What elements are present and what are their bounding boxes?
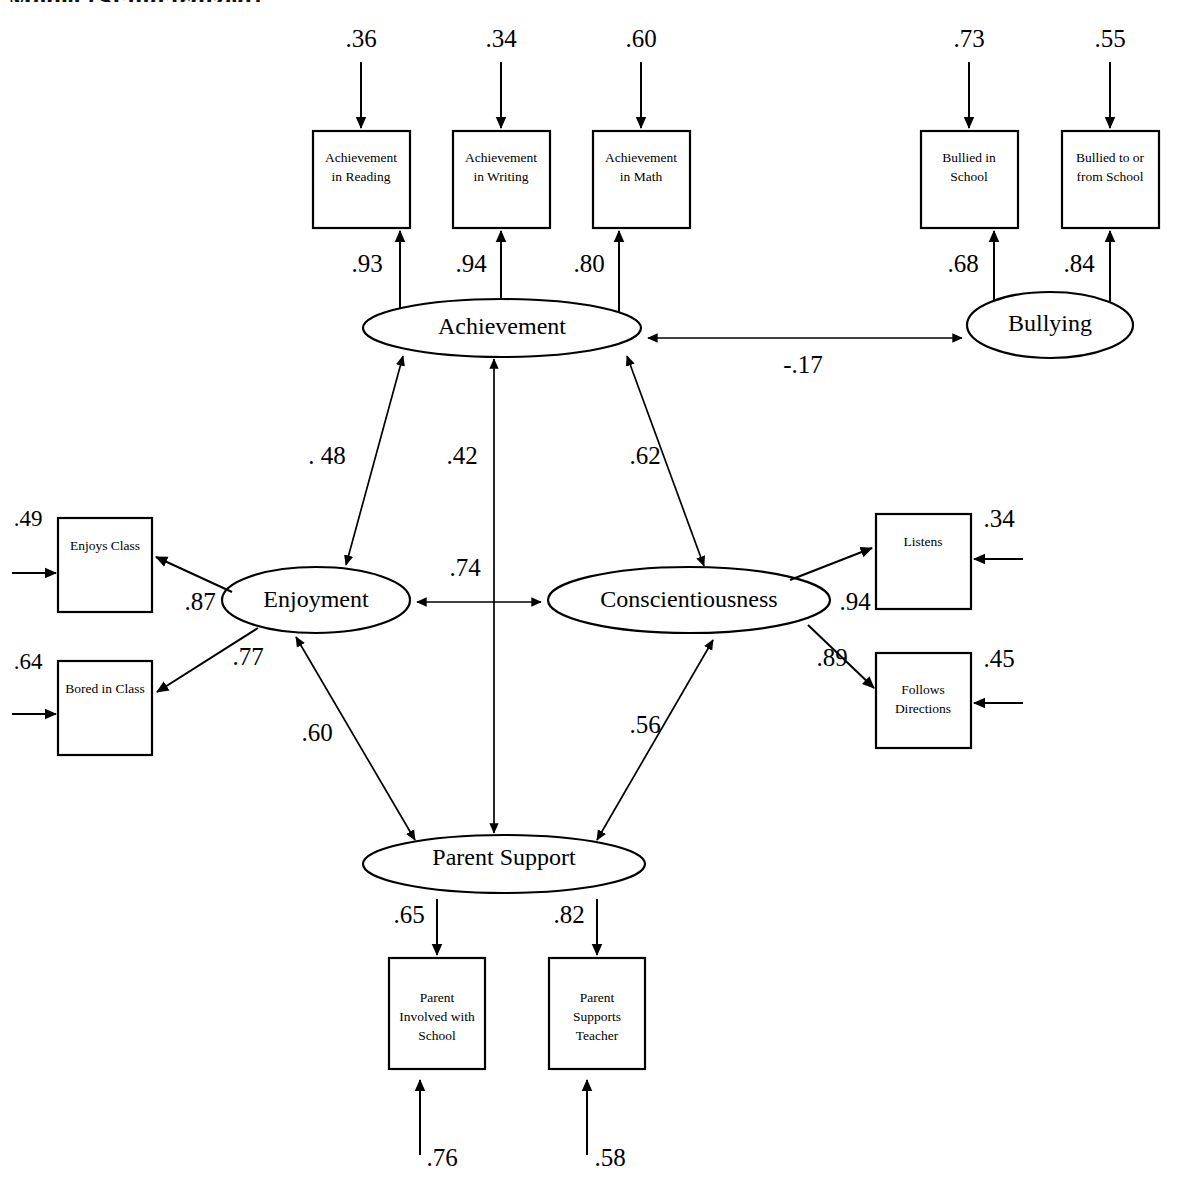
label-parent-involved-l1: Parent <box>420 990 455 1005</box>
loading-arrow-listens <box>790 548 872 580</box>
coef-conscientiousness-parent-support: .56 <box>629 711 660 738</box>
coef-residual-parent-involved: .76 <box>426 1144 457 1171</box>
coef-loading-bored: .77 <box>232 643 263 670</box>
path-conscientiousness-parent-support <box>597 640 713 840</box>
coef-residual-math: .60 <box>625 25 656 52</box>
coef-residual-writing: .34 <box>485 25 517 52</box>
label-bored-class: Bored in Class <box>65 681 145 696</box>
coef-enjoyment-conscientiousness: .74 <box>449 554 481 581</box>
coef-achievement-conscientiousness: .62 <box>629 442 660 469</box>
coef-achievement-bullying: -.17 <box>783 351 823 378</box>
label-bullied-school-l2: School <box>950 169 988 184</box>
label-ach-math-l2: in Math <box>620 169 663 184</box>
coef-loading-writing: .94 <box>455 250 487 277</box>
label-parent-supports-l1: Parent <box>580 990 615 1005</box>
coef-loading-enjoys: .87 <box>184 588 215 615</box>
label-bullied-tofrom-l1: Bullied to or <box>1076 150 1145 165</box>
coef-residual-parent-supports: .58 <box>594 1144 625 1171</box>
label-bullied-tofrom-l2: from School <box>1076 169 1143 184</box>
label-ach-math-l1: Achievement <box>605 150 677 165</box>
label-parent-involved-l3: School <box>418 1028 456 1043</box>
path-achievement-enjoyment <box>346 356 403 565</box>
coef-loading-bullied-school: .68 <box>947 250 978 277</box>
label-parent-supports-l3: Teacher <box>576 1028 619 1043</box>
box-enjoys-class[interactable] <box>58 518 152 612</box>
label-enjoys-class: Enjoys Class <box>70 538 140 553</box>
label-conscientiousness: Conscientiousness <box>600 586 777 612</box>
diagram-canvas: Achievement in Reading Achievement in Wr… <box>0 0 1181 1197</box>
coef-residual-reading: .36 <box>345 25 376 52</box>
label-parent-involved-l2: Involved with <box>399 1009 475 1024</box>
coef-loading-listens: .94 <box>839 588 871 615</box>
residual-arrows-top <box>361 62 1110 128</box>
residual-arrows-right <box>974 559 1023 703</box>
residual-arrows-left <box>12 573 56 714</box>
label-bullied-school-l1: Bullied in <box>942 150 996 165</box>
label-follows-l1: Follows <box>901 682 945 697</box>
label-bullying: Bullying <box>1008 310 1092 336</box>
coef-loading-parent-involved: .65 <box>393 901 424 928</box>
loading-arrows-left <box>156 557 258 692</box>
coef-residual-follows: .45 <box>983 645 1014 672</box>
coef-loading-bullied-tofrom: .84 <box>1063 250 1095 277</box>
box-bored-in-class[interactable] <box>58 661 152 755</box>
coef-residual-enjoys: .49 <box>14 506 43 531</box>
coef-residual-bored: .64 <box>14 649 43 674</box>
label-ach-writing-l2: in Writing <box>473 169 528 184</box>
label-follows-l2: Directions <box>895 701 951 716</box>
indicator-boxes-top <box>313 131 1159 228</box>
label-parent-support: Parent Support <box>432 844 576 870</box>
coef-residual-bullied-school: .73 <box>953 25 984 52</box>
label-achievement: Achievement <box>438 313 566 339</box>
coef-loading-follows: .89 <box>816 644 847 671</box>
label-listens: Listens <box>904 534 943 549</box>
label-ach-reading-l2: in Reading <box>332 169 391 184</box>
coef-loading-reading: .93 <box>351 250 382 277</box>
label-enjoyment: Enjoyment <box>263 586 369 612</box>
label-parent-supports-l2: Supports <box>573 1009 621 1024</box>
sem-path-diagram: Model (Standardized) <box>0 0 1181 1197</box>
coef-enjoyment-parent-support: .60 <box>301 719 332 746</box>
coef-residual-listens: .34 <box>983 505 1015 532</box>
coef-achievement-enjoyment: . 48 <box>308 442 346 469</box>
box-listens[interactable] <box>876 514 971 609</box>
label-ach-writing-l1: Achievement <box>465 150 537 165</box>
coef-residual-bullied-tofrom: .55 <box>1094 25 1125 52</box>
indicator-boxes-left <box>58 518 152 755</box>
label-ach-reading-l1: Achievement <box>325 150 397 165</box>
coef-achievement-parent-support: .42 <box>446 442 477 469</box>
coef-loading-parent-supports: .82 <box>553 901 584 928</box>
coef-loading-math: .80 <box>573 250 604 277</box>
